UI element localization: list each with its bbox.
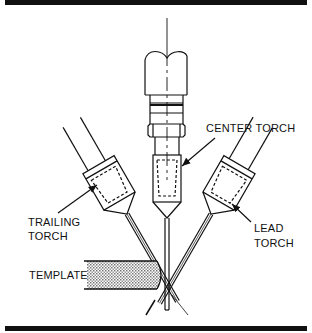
lead-torch-leader <box>232 204 251 222</box>
bottom-border-bar <box>5 326 307 331</box>
trailing-torch-label-line2: TORCH <box>28 230 68 243</box>
torch-diagram <box>0 0 312 333</box>
trailing-torch-leader <box>58 185 97 213</box>
center-torch-leader <box>182 138 215 166</box>
lead-torch-label-line1: LEAD <box>254 222 284 235</box>
center-torch-label: CENTER TORCH <box>206 122 295 135</box>
template-label: TEMPLATE <box>29 269 88 282</box>
template-plate <box>84 261 161 289</box>
trailing-torch-label-line1: TRAILING <box>28 216 80 229</box>
lead-torch-label-line2: TORCH <box>254 237 294 250</box>
